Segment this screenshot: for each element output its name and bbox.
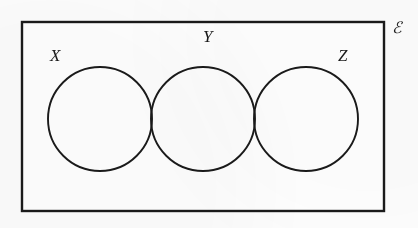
set-label-y: Y xyxy=(203,28,212,45)
venn-diagram-figure: X Y Z ℰ xyxy=(0,0,418,228)
set-label-x: X xyxy=(50,47,60,64)
universal-set-rectangle xyxy=(22,22,384,211)
universal-set-symbol: ℰ xyxy=(392,20,402,36)
set-label-z: Z xyxy=(338,47,347,64)
